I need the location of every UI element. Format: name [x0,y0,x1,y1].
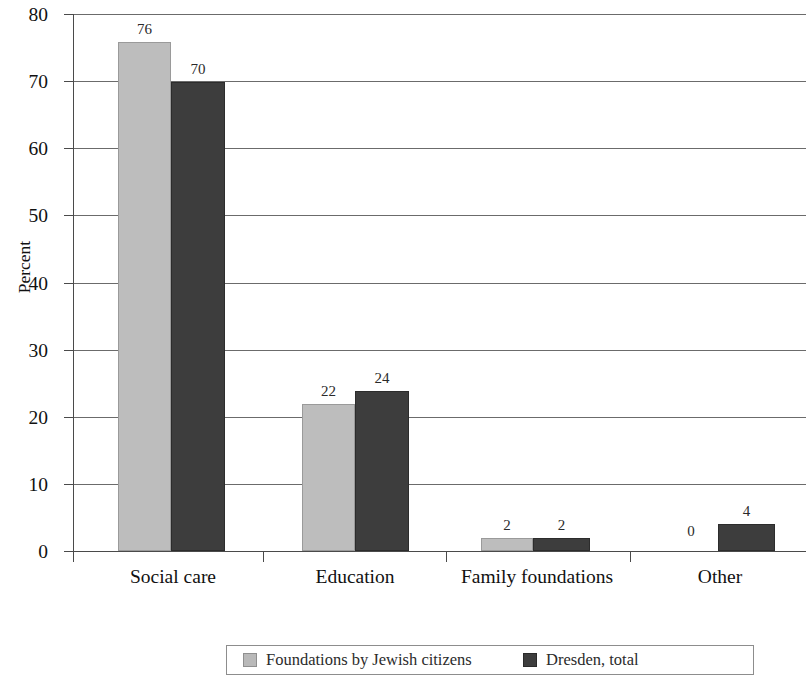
tick-y-50 [64,215,73,216]
bar-value-family-foundations-jewish: 2 [481,518,533,533]
tick-y-40 [64,283,73,284]
bar-value-other-jewish: 0 [665,524,717,539]
tick-y-70 [64,81,73,82]
bar-family-foundations-dresden [533,538,590,551]
y-tick-label-70: 70 [0,72,48,91]
axis-y-line [73,14,74,552]
chart-legend: Foundations by Jewish citizens Dresden, … [226,645,754,675]
category-label-other: Other [650,566,790,588]
legend-label-dresden-total: Dresden, total [546,651,639,669]
bar-education-jewish [302,404,355,551]
category-label-family-foundations: Family foundations [442,566,632,588]
y-axis-title: Percent [15,227,33,307]
tick-x-2 [446,552,447,562]
y-tick-label-10: 10 [0,475,48,494]
bar-value-social-care-dresden: 70 [171,62,225,77]
y-tick-label-20: 20 [0,408,48,427]
bar-education-dresden [355,391,409,551]
bar-family-foundations-jewish [481,538,533,551]
y-tick-label-0: 0 [0,542,48,561]
bar-value-education-jewish: 22 [302,384,355,399]
tick-y-20 [64,417,73,418]
bar-social-care-jewish [118,42,171,551]
bar-value-social-care-jewish: 76 [118,22,171,37]
bar-value-education-dresden: 24 [355,371,409,386]
tick-x-3 [630,552,631,562]
y-tick-label-60: 60 [0,139,48,158]
legend-item-dresden-total: Dresden, total [523,650,639,670]
legend-label-jewish-foundations: Foundations by Jewish citizens [266,651,472,669]
bar-social-care-dresden [171,82,225,551]
category-label-social-care: Social care [88,566,258,588]
tick-y-60 [64,148,73,149]
axis-x-line [73,551,806,552]
legend-swatch-light-icon [243,653,257,667]
legend-item-jewish-foundations: Foundations by Jewish citizens [243,650,472,670]
y-tick-label-50: 50 [0,206,48,225]
bar-chart: 80 70 60 50 40 30 20 10 0 Percent 76 70 … [0,0,806,677]
bar-value-family-foundations-dresden: 2 [533,518,590,533]
y-tick-label-80: 80 [0,5,48,24]
tick-y-80 [64,14,73,15]
tick-x-1 [263,552,264,562]
y-tick-label-30: 30 [0,341,48,360]
category-label-education: Education [275,566,435,588]
tick-y-30 [64,350,73,351]
bar-other-dresden [718,524,775,551]
bar-value-other-dresden: 4 [718,504,775,519]
tick-x-0 [73,552,74,562]
tick-y-0 [64,551,73,552]
tick-y-10 [64,484,73,485]
gridline-80 [73,14,806,15]
legend-swatch-dark-icon [523,653,537,667]
